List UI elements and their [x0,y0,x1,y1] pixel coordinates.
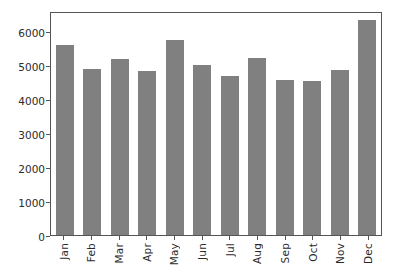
x-tick-label: Nov [334,243,346,264]
x-tick-mark [146,236,147,240]
x-tick-label: Aug [251,243,263,264]
x-tick-mark [229,236,230,240]
bar-dec [358,20,376,236]
y-tick-label: 5000 [18,61,50,73]
x-tick-label: Oct [307,243,319,262]
y-axis: 0100020003000400050006000 [0,12,50,236]
y-tick-label: 1000 [18,197,50,209]
x-tick-mark [257,236,258,240]
bar-series [51,13,381,235]
x-tick-label: Jun [196,243,208,260]
y-tick-0: 0 [38,230,50,242]
x-tick-jun: Jun [193,236,211,260]
x-tick-label: May [168,243,180,265]
y-tick-label: 2000 [18,163,50,175]
x-tick-nov: Nov [331,236,349,264]
x-tick-mark [202,236,203,240]
bar-oct [303,81,321,235]
x-tick-mark [285,236,286,240]
y-tick-5000: 5000 [18,60,50,72]
x-tick-dec: Dec [359,236,377,264]
x-tick-mark [340,236,341,240]
x-tick-label: Dec [362,243,374,264]
x-tick-mark [174,236,175,240]
plot-area [50,12,382,236]
y-tick-label: 0 [38,231,50,243]
x-tick-may: May [165,236,183,265]
x-tick-mark [91,236,92,240]
x-tick-aug: Aug [248,236,266,264]
x-tick-jan: Jan [55,236,73,260]
x-tick-feb: Feb [82,236,100,262]
bar-jan [56,45,74,235]
x-tick-sep: Sep [276,236,294,263]
x-tick-label: Apr [141,243,153,262]
bar-jun [193,65,211,235]
x-axis: JanFebMarAprMayJunJulAugSepOctNovDec [50,236,382,278]
bar-feb [83,69,101,235]
y-tick-label: 4000 [18,95,50,107]
x-tick-apr: Apr [138,236,156,262]
x-tick-mark [119,236,120,240]
bar-aug [248,58,266,235]
bar-nov [331,70,349,235]
y-tick-2000: 2000 [18,162,50,174]
x-tick-label: Mar [113,243,125,263]
bar-jul [221,76,239,236]
bar-mar [111,59,129,235]
y-tick-4000: 4000 [18,94,50,106]
x-tick-mark [63,236,64,240]
y-tick-label: 6000 [18,27,50,39]
y-tick-6000: 6000 [18,26,50,38]
bar-may [166,40,184,235]
x-tick-label: Jul [224,243,236,256]
x-tick-mark [368,236,369,240]
y-tick-3000: 3000 [18,128,50,140]
x-tick-oct: Oct [304,236,322,262]
x-tick-label: Jan [58,243,70,260]
x-tick-jul: Jul [221,236,239,256]
x-tick-label: Sep [279,243,291,263]
bar-sep [276,80,294,235]
y-tick-1000: 1000 [18,196,50,208]
x-tick-mark [312,236,313,240]
bar-apr [138,71,156,235]
bar-chart-figure: 0100020003000400050006000 JanFebMarAprMa… [0,0,401,278]
x-tick-mar: Mar [110,236,128,263]
x-tick-label: Feb [85,243,97,262]
y-tick-label: 3000 [18,129,50,141]
